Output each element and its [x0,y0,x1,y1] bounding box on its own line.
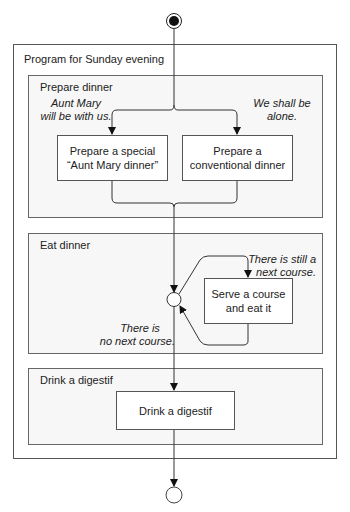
guard-next-course-line1: There is still a [228,253,316,266]
guard-no-next-course-line2: no next course. [95,335,175,348]
guard-alone-line2: alone. [242,110,322,123]
guard-next-course: There is still a next course. [228,253,316,279]
action-aunt-mary-line2: “Aunt Mary dinner” [67,158,158,172]
action-serve-course: Serve a course and eat it [204,278,293,324]
action-conventional-line2: conventional dinner [190,158,285,172]
merge-node-icon [167,293,181,307]
action-aunt-mary-line1: Prepare a special [67,144,158,158]
guard-no-next-course: There is no next course. [95,322,175,348]
action-prepare-conventional-dinner: Prepare a conventional dinner [182,135,293,181]
guard-aunt-mary-line2: will be with us. [36,110,116,123]
action-conventional-line1: Prepare a [190,144,285,158]
guard-aunt-mary: Aunt Mary will be with us. [36,97,116,123]
action-serve-line2: and eat it [212,301,286,315]
final-node-icon [166,487,182,503]
action-drink-line1: Drink a digestif [139,404,212,418]
action-prepare-aunt-mary-dinner: Prepare a special “Aunt Mary dinner” [57,135,168,181]
guard-alone: We shall be alone. [242,97,322,123]
guard-alone-line1: We shall be [242,97,322,110]
action-drink-digestif: Drink a digestif [116,391,235,430]
guard-no-next-course-line1: There is [95,322,175,335]
guard-aunt-mary-line1: Aunt Mary [36,97,116,110]
initial-node-icon [167,14,182,29]
action-serve-line1: Serve a course [212,287,286,301]
